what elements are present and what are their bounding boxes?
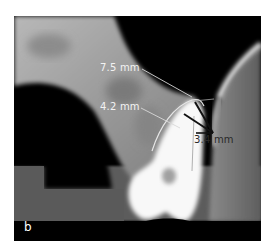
trabecular-region (27, 34, 71, 58)
panel-letter: b (24, 220, 32, 234)
bottom-band (14, 221, 261, 241)
measurement-label-3-4: 3.4 mm (194, 134, 234, 145)
pulp-chamber (162, 168, 176, 184)
measurement-label-7-5: 7.5 mm (100, 62, 140, 73)
measurement-label-4-2: 4.2 mm (100, 101, 140, 112)
soft-tissue-block (14, 166, 44, 221)
ct-scan-image: 7.5 mm 4.2 mm 3.4 mm b (14, 16, 261, 241)
soft-tissue-block (44, 189, 124, 221)
ct-scan-drawing (14, 16, 261, 241)
